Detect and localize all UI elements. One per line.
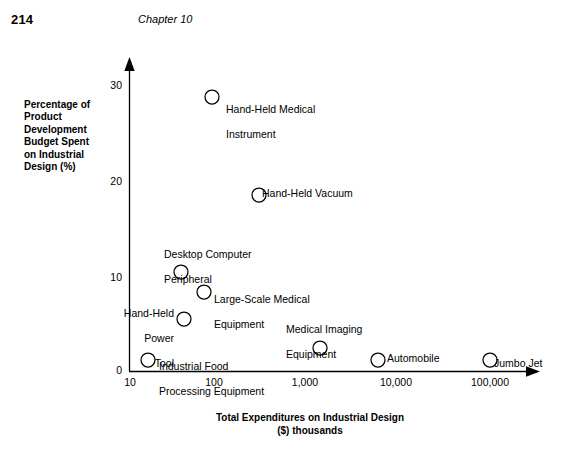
y-axis-title-line-5: on Industrial [24, 149, 124, 161]
point-label-line-1: Hand-Held Medical [226, 103, 315, 116]
x-axis-title-line-2: ($) thousands [150, 425, 470, 438]
y-axis-title: Percentage of Product Development Budget… [24, 99, 124, 173]
point-label-line-1: Automobile [387, 352, 440, 365]
data-marker [205, 90, 219, 104]
point-label-line-1: Large-Scale Medical [214, 293, 310, 306]
x-tick-label-1000: 1,000 [275, 377, 335, 388]
page: 214 Chapter 10 [0, 0, 562, 454]
y-tick-label-20: 20 [96, 176, 122, 187]
data-marker [371, 353, 385, 367]
x-axis-title-line-1: Total Expenditures on Industrial Design [150, 412, 470, 425]
point-label-hand-held-vacuum: Hand-Held Vacuum [262, 174, 353, 212]
point-label-hand-held-medical-instrument: Hand-Held Medical Instrument [226, 90, 315, 153]
point-label-line-2: Processing Equipment [159, 385, 264, 398]
point-label-industrial-food-processing-equipment: Industrial Food Processing Equipment [159, 347, 264, 410]
y-axis-title-line-2: Product [24, 111, 124, 123]
x-axis-title: Total Expenditures on Industrial Design … [150, 412, 470, 437]
point-label-line-1: Medical Imaging [286, 323, 362, 336]
x-tick-label-10000: 10,000 [366, 377, 426, 388]
point-label-line-2: Power [86, 332, 174, 345]
point-label-line-1: Hand-Held Vacuum [262, 187, 353, 200]
point-label-medical-imaging-equipment: Medical Imaging Equipment [286, 310, 362, 373]
y-tick-label-10: 10 [96, 272, 122, 283]
y-axis-title-line-4: Budget Spent [24, 136, 124, 148]
point-label-line-1: Desktop Computer [164, 248, 252, 261]
point-label-line-1: Hand-Held [86, 307, 174, 320]
point-label-line-2: Instrument [226, 128, 315, 141]
point-label-line-1: Industrial Food [159, 360, 264, 373]
point-label-automobile: Automobile [387, 339, 440, 377]
y-tick-label-30: 30 [96, 80, 122, 91]
point-label-jumbo-jet: Jumbo Jet [494, 344, 542, 382]
point-label-line-2: Equipment [286, 348, 362, 361]
y-axis-title-line-6: Design (%) [24, 161, 124, 173]
y-axis-title-line-1: Percentage of [24, 99, 124, 111]
point-label-line-1: Jumbo Jet [494, 357, 542, 370]
scatter-chart: Percentage of Product Development Budget… [0, 0, 562, 454]
y-axis-title-line-3: Development [24, 124, 124, 136]
data-marker [177, 312, 191, 326]
